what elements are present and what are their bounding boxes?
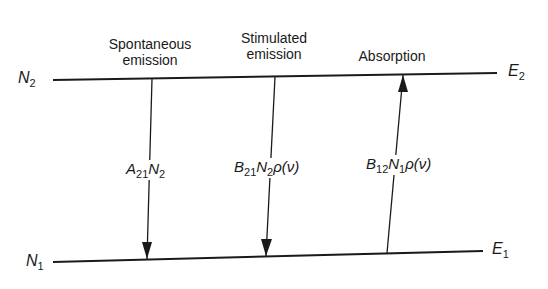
absorption-title: Absorption <box>342 48 442 64</box>
upper-population-label: N2 <box>18 70 36 91</box>
absorption-rate-label: B12N1ρ(ν) <box>364 155 433 175</box>
stimulated-rate-label: B21N2ρ(ν) <box>232 158 301 178</box>
lower-population-label: N1 <box>26 253 44 274</box>
arrowhead-down-icon <box>142 242 152 259</box>
spontaneous-rate-label: A21N2 <box>124 160 167 180</box>
upper-energy-label: E2 <box>508 63 525 84</box>
stimulated-emission-title: Stimulated emission <box>224 30 324 62</box>
lower-energy-level-line <box>53 251 483 262</box>
spontaneous-emission-title: Spontaneous emission <box>98 36 202 68</box>
arrowhead-up-icon <box>398 75 408 92</box>
arrowhead-down-icon <box>261 239 272 256</box>
lower-energy-label: E1 <box>492 241 509 262</box>
